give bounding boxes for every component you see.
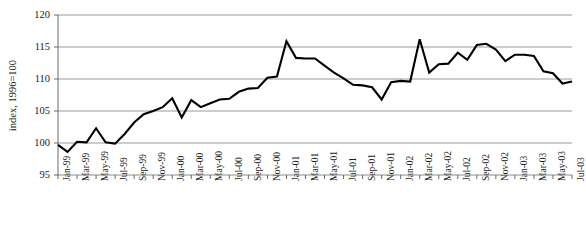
y-axis-ticks — [54, 15, 58, 175]
data-line-index — [58, 39, 572, 152]
x-axis-ticks — [58, 175, 572, 179]
gridlines — [58, 15, 572, 175]
